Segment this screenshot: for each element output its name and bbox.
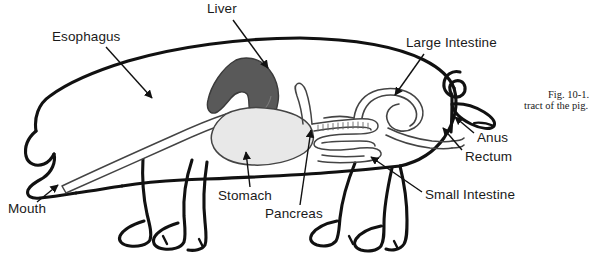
stomach-organ (211, 108, 313, 166)
pig-front-legs (119, 158, 207, 250)
label-esophagus: Esophagus (52, 30, 120, 44)
label-mouth: Mouth (8, 202, 46, 216)
label-rectum: Rectum (465, 150, 512, 164)
label-large-intestine: Large Intestine (406, 36, 497, 50)
figure-caption-text: tract of the pig. (524, 99, 588, 113)
label-liver: Liver (207, 2, 237, 16)
small-intestine-organ (312, 119, 381, 163)
label-pancreas: Pancreas (265, 207, 323, 221)
leader-large-intestine (395, 54, 424, 95)
large-intestine-organ (324, 88, 452, 148)
leader-mouth (37, 185, 58, 202)
anus-region (452, 104, 495, 129)
label-anus: Anus (477, 131, 508, 145)
label-stomach: Stomach (218, 189, 272, 203)
label-small-intestine: Small Intestine (425, 188, 515, 202)
leader-esophagus (106, 47, 152, 98)
pig-digestive-tract-figure: Esophagus Liver Large Intestine Anus Rec… (0, 0, 606, 258)
pig-hind-legs (311, 163, 407, 251)
